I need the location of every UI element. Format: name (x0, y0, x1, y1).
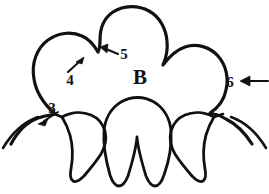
callout-4: 4 (66, 57, 84, 88)
left-lobe-join-path (55, 114, 62, 117)
callout-4-leader-line (68, 62, 79, 72)
left-inner-petal-path (62, 113, 106, 182)
callout-5-leader-line (106, 49, 118, 54)
callout-3-arrowhead (38, 119, 48, 126)
center-inner-petal-path (104, 98, 171, 187)
callout-6-label: 6 (226, 74, 234, 90)
callout-3: 3 (38, 100, 58, 126)
figure-letter-label: B (133, 65, 147, 89)
callout-5-label: 5 (120, 46, 128, 62)
callout-5: 5 (100, 44, 128, 62)
line-diagram-svg: 3 4 5 6 B (0, 0, 269, 194)
callout-4-label: 4 (66, 72, 74, 88)
callout-6-arrowhead (240, 76, 250, 86)
callout-6: 6 (226, 74, 268, 90)
outer-outline-path (11, 7, 252, 144)
figure-container: 3 4 5 6 B (0, 0, 269, 194)
right-inner-petal-path (170, 113, 214, 182)
right-base-arc (231, 117, 266, 148)
callout-3-label: 3 (48, 100, 56, 116)
